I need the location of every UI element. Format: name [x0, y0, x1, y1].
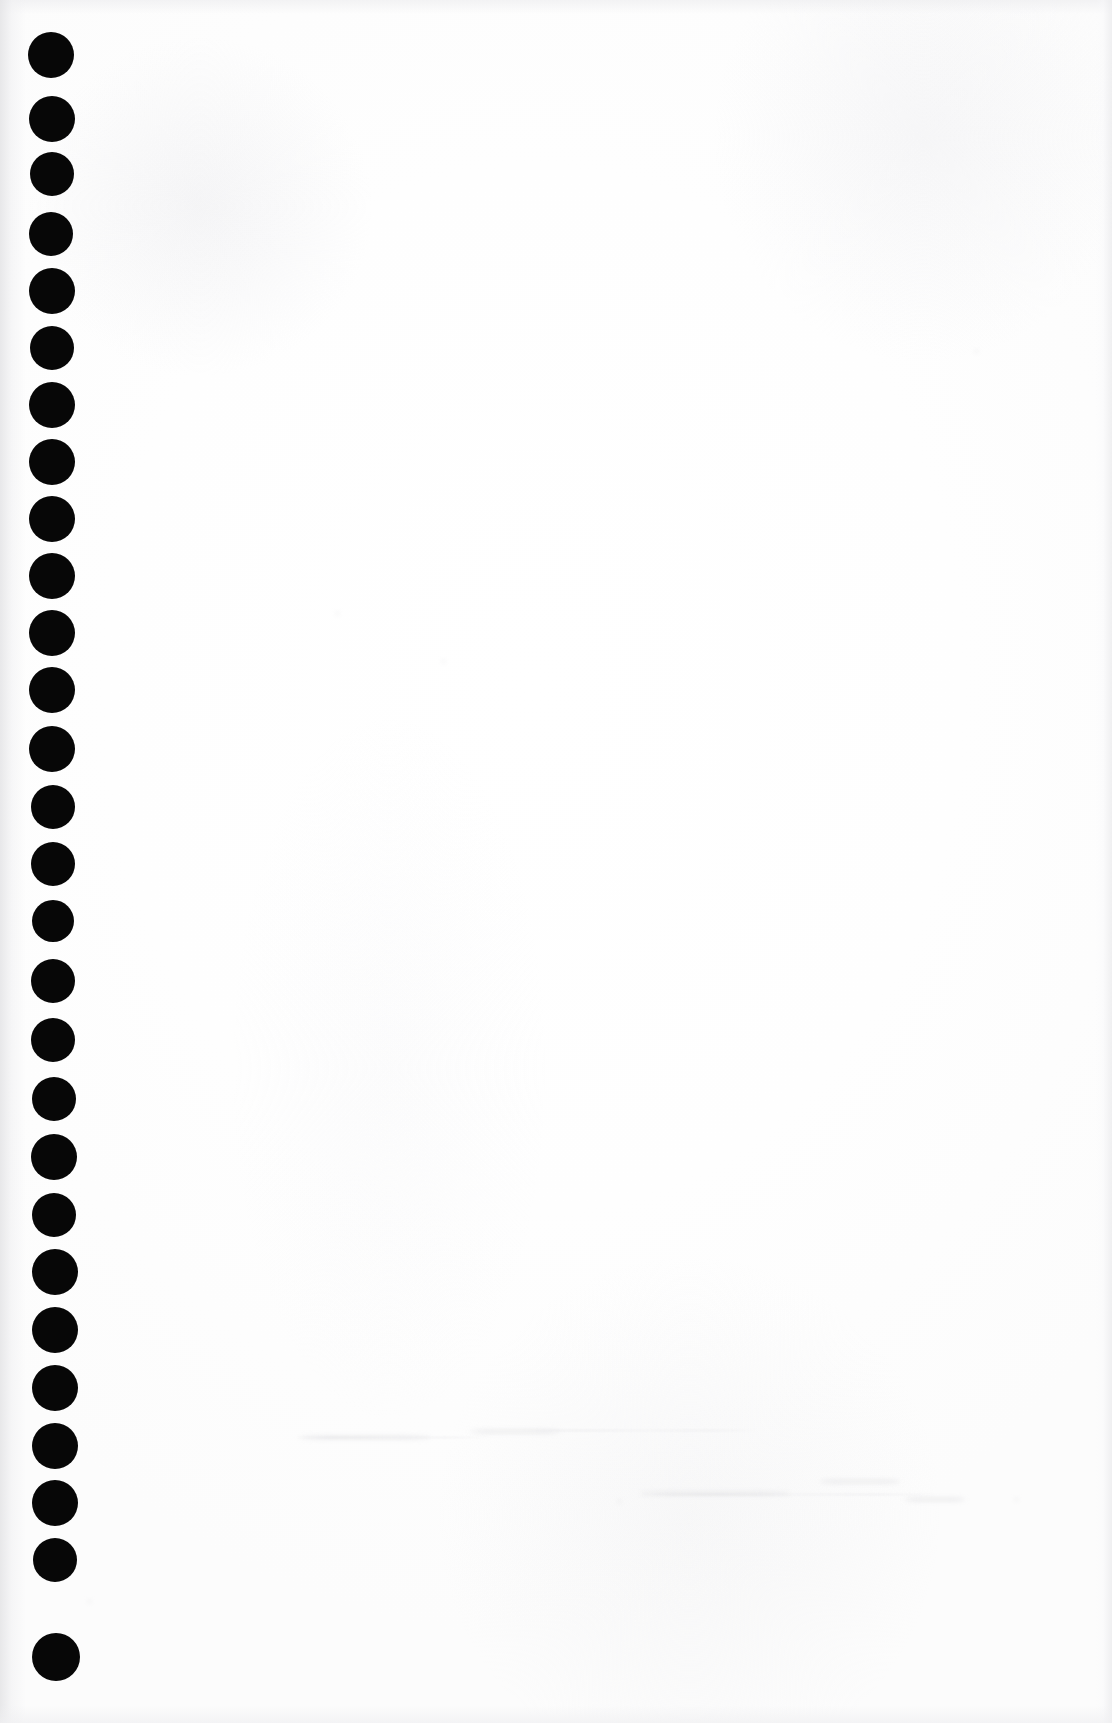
margin-dot: [31, 1018, 75, 1062]
margin-dot: [32, 1193, 76, 1237]
margin-dot: [31, 959, 75, 1003]
paper-surface: [0, 0, 1112, 1723]
margin-dot: [32, 900, 74, 942]
margin-dot: [29, 268, 75, 314]
margin-dot: [32, 1307, 78, 1353]
margin-dot: [32, 1480, 78, 1526]
margin-dot: [32, 1423, 78, 1469]
margin-dot: [32, 1633, 80, 1681]
margin-dot: [31, 785, 75, 829]
margin-dot: [33, 1538, 77, 1582]
margin-dot: [31, 1134, 77, 1180]
margin-dot: [31, 842, 75, 886]
margin-dot: [32, 1365, 78, 1411]
margin-dot: [29, 553, 75, 599]
margin-dot: [30, 326, 74, 370]
margin-dot: [29, 212, 73, 256]
margin-dot: [29, 726, 75, 772]
margin-dot: [29, 96, 75, 142]
margin-dot: [29, 667, 75, 713]
margin-dot: [29, 610, 75, 656]
margin-dot: [29, 496, 75, 542]
margin-dot: [32, 1249, 78, 1295]
margin-dot: [30, 152, 74, 196]
margin-dot: [28, 32, 74, 78]
margin-dot: [29, 439, 75, 485]
margin-dot: [32, 1077, 76, 1121]
margin-dot: [29, 382, 75, 428]
scanned-page: [0, 0, 1112, 1723]
